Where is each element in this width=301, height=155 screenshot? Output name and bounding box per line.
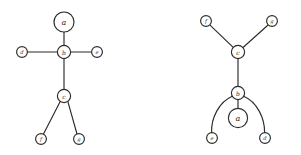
node-circle-c[interactable] [57,89,70,102]
graph-node-a[interactable]: a [228,108,247,127]
graph-node-c[interactable]: c [231,45,244,58]
node-circle-g[interactable] [267,16,278,27]
graph-figure: abdecfg fgcbaed [0,0,301,155]
graph-node-e[interactable]: e [92,47,103,58]
graph-edge-g-c [242,25,268,48]
graph-node-f[interactable]: f [201,16,212,27]
graph-edge-f-c [210,25,234,48]
graph-node-g[interactable]: g [267,16,278,27]
left-drawing: abdecfg [17,12,103,144]
graph-node-d[interactable]: d [260,133,271,144]
graph-edge-c-g [68,101,77,134]
graph-node-d[interactable]: d [17,47,28,58]
node-circle-f[interactable] [201,16,212,27]
node-circle-e[interactable] [207,133,218,144]
graph-node-b[interactable]: b [57,45,70,58]
node-circle-b[interactable] [57,45,70,58]
node-layer: abdecfg [17,12,103,144]
graph-node-b[interactable]: b [231,86,244,99]
node-circle-b[interactable] [231,86,244,99]
right-drawing: fgcbaed [201,16,278,144]
graph-node-a[interactable]: a [54,12,74,32]
graph-node-f[interactable]: f [36,134,47,145]
node-circle-a[interactable] [54,12,74,32]
node-circle-a[interactable] [228,108,247,127]
node-circle-d[interactable] [17,47,28,58]
graph-node-e[interactable]: e [207,133,218,144]
node-circle-d[interactable] [260,133,271,144]
node-circle-f[interactable] [36,134,47,145]
graph-node-g[interactable]: g [74,134,85,145]
node-circle-g[interactable] [74,134,85,145]
graph-canvas: abdecfg fgcbaed [0,0,301,155]
node-circle-c[interactable] [231,45,244,58]
node-circle-e[interactable] [92,47,103,58]
graph-edge-c-f [44,101,61,134]
graph-node-c[interactable]: c [57,89,70,102]
